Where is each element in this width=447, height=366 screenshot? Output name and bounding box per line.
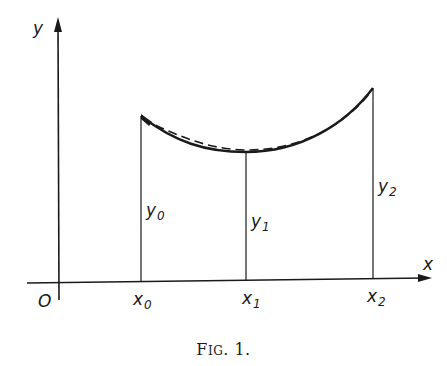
tick-label-x2: x2 [367,288,386,305]
y-axis-arrow-icon [54,17,62,32]
dashed-curve [143,93,370,150]
y-axis-label: y [33,20,43,37]
tick-label-x1: x1 [242,290,261,307]
x-axis-arrow-icon [418,274,432,282]
tick-label-x0: x0 [133,291,152,308]
solid-curve [141,88,373,152]
ordinate-label-y2: y2 [378,178,397,195]
figure-caption: FIG. 1. [0,340,447,359]
x-axis-label: x [423,256,433,273]
y-axis [58,22,59,300]
x-axis [27,278,424,283]
ordinate-label-y1: y1 [251,213,270,230]
origin-label: O [38,293,51,310]
ordinate-label-y0: y0 [146,202,165,219]
